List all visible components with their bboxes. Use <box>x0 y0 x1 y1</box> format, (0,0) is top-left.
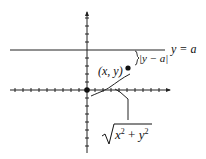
y-axis-arrow-icon <box>85 11 89 16</box>
diagram-canvas: y = a |y − a| (x, y) x2 + y2 <box>0 0 206 159</box>
origin-point <box>84 87 90 93</box>
line-label: y = a <box>171 42 196 57</box>
point-label: (x, y) <box>98 64 123 79</box>
x-axis-arrow-icon <box>166 88 171 92</box>
point-xy <box>125 65 130 70</box>
radius-plus: + <box>125 127 139 142</box>
radius-leader-line <box>115 89 128 120</box>
radius-y-exp: 2 <box>144 127 148 136</box>
distance-label: |y − a| <box>139 52 168 64</box>
